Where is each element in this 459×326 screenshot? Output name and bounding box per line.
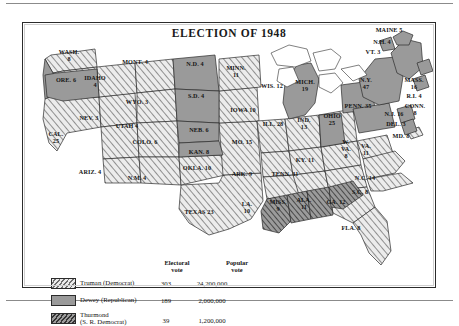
state-label-texas: TEXAS 23 bbox=[175, 209, 223, 216]
state-label-sd: S.D. 4 bbox=[179, 93, 213, 100]
state-label-nd: N.D. 4 bbox=[177, 61, 213, 68]
legend-column-headers: Electoralvote Popularvote bbox=[147, 259, 267, 273]
state-label-ga: GA. 12 bbox=[317, 199, 355, 206]
state-label-del: DEL. 3 bbox=[379, 121, 413, 128]
state-label-utah: UTAH 4 bbox=[109, 123, 145, 130]
legend-popular-header: Popularvote bbox=[207, 259, 267, 273]
state-label-mo: MO. 15 bbox=[223, 139, 261, 146]
legend-row-truman: Truman (Democrat) 303 24,200,000 bbox=[51, 276, 241, 290]
legend-label-dewey: Dewey (Republican) bbox=[80, 296, 149, 303]
legend-popular-truman: 24,200,000 bbox=[183, 280, 241, 287]
state-label-colo: COLO. 6 bbox=[123, 139, 167, 146]
state-label-ala: ALA.11 bbox=[291, 197, 317, 211]
map-frame: ELECTION OF 1948 WASH.8 ORE. 6 CAL.25 ID… bbox=[22, 22, 436, 288]
state-label-nc: N.C. 14 bbox=[345, 175, 385, 182]
state-label-wva: W.VA.8 bbox=[337, 139, 355, 159]
state-label-mass: MASS.16 bbox=[399, 77, 429, 91]
state-label-kan: KAN. 8 bbox=[181, 149, 217, 156]
state-label-md: MD. 8 bbox=[385, 133, 417, 140]
legend-electoral-header: Electoralvote bbox=[147, 259, 207, 273]
state-label-miss: MISS.9 bbox=[263, 199, 293, 213]
legend-popular-thurmond: 1,200,000 bbox=[183, 317, 241, 324]
state-label-neb: NEB. 6 bbox=[181, 127, 217, 134]
legend-swatch-truman bbox=[51, 278, 76, 289]
legend-popular-dewey: 2,000,000 bbox=[183, 297, 241, 304]
state-label-ariz: ARIZ. 4 bbox=[71, 169, 109, 176]
top-divider bbox=[6, 3, 453, 4]
state-label-ky: KY. 11 bbox=[289, 157, 321, 164]
state-label-maine: MAINE 5 bbox=[367, 27, 411, 34]
state-label-vt: VT. 3 bbox=[359, 49, 387, 56]
state-label-ind: IND.13 bbox=[291, 117, 317, 131]
legend-label-thurmond: Thurmond (S. R. Democrat) bbox=[80, 311, 149, 326]
state-label-cal: CAL.25 bbox=[41, 131, 71, 145]
state-label-okla: OKLA. 10 bbox=[175, 165, 219, 172]
state-label-wyo: WYO. 3 bbox=[119, 99, 155, 106]
state-label-ohio: OHIO25 bbox=[317, 113, 347, 127]
legend-swatch-thurmond bbox=[51, 313, 76, 324]
state-label-ny: N.Y.47 bbox=[353, 77, 379, 91]
state-label-wis: WIS. 12 bbox=[253, 83, 291, 90]
state-label-nm: N.M. 4 bbox=[119, 175, 155, 182]
legend-swatch-dewey bbox=[51, 295, 76, 306]
state-label-wash: WASH.8 bbox=[51, 49, 87, 63]
state-label-tenn: TENN. 11 bbox=[261, 171, 309, 178]
legend-row-thurmond: Thurmond (S. R. Democrat) 39 1,200,000 bbox=[51, 310, 241, 326]
state-label-idaho: IDAHO4 bbox=[79, 75, 111, 89]
state-label-ark: ARK. 9 bbox=[225, 171, 259, 178]
legend-electoral-thurmond: 39 bbox=[149, 317, 183, 324]
legend-label-truman: Truman (Democrat) bbox=[80, 279, 149, 286]
state-label-iowa: IOWA 10 bbox=[223, 107, 263, 114]
state-label-nh: N.H. 4 bbox=[365, 39, 399, 46]
state-label-mont: MONT. 4 bbox=[115, 59, 155, 66]
state-label-sc: S.C. 8 bbox=[343, 189, 377, 196]
legend-electoral-dewey: 189 bbox=[149, 297, 183, 304]
state-label-la: LA.10 bbox=[235, 201, 259, 215]
state-label-fla: FLA. 8 bbox=[333, 225, 369, 232]
state-label-ri: R.I. 4 bbox=[401, 93, 427, 100]
legend-row-dewey: Dewey (Republican) 189 2,000,000 bbox=[51, 293, 241, 307]
legend-electoral-truman: 303 bbox=[149, 280, 183, 287]
state-label-minn: MINN.11 bbox=[219, 65, 253, 79]
state-label-va: VA.11 bbox=[357, 143, 375, 157]
state-label-nev: NEV. 3 bbox=[71, 115, 107, 122]
state-label-nj: N.J. 16 bbox=[375, 111, 413, 118]
state-label-penn: PENN. 35 bbox=[335, 103, 381, 110]
state-label-mich: MICH.19 bbox=[289, 79, 321, 93]
state-label-ill: ILL. 28 bbox=[255, 121, 291, 128]
